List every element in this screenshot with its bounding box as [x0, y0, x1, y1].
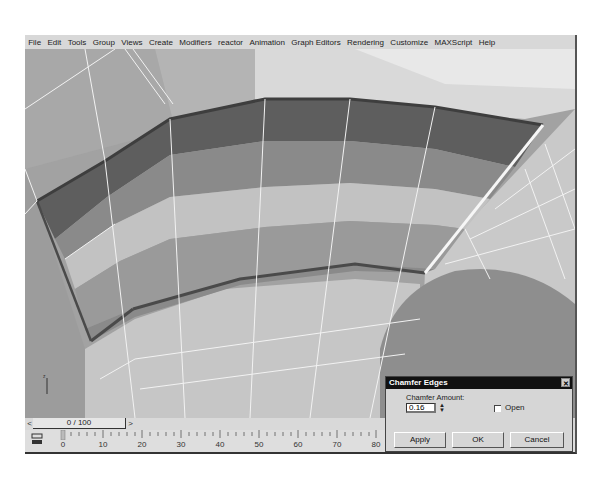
menu-animation[interactable]: Animation — [246, 38, 288, 47]
chamfer-amount-label: Chamfer Amount: — [406, 393, 464, 402]
ruler-tick-label: 50 — [255, 440, 264, 449]
ruler-tick-label: 10 — [99, 440, 108, 449]
frame-ruler[interactable]: 0 10 20 30 40 50 60 70 80 — [55, 430, 385, 452]
svg-text:z: z — [43, 374, 46, 379]
dialog-title-bar[interactable]: Chamfer Edges ✕ — [386, 377, 572, 389]
menu-create[interactable]: Create — [146, 38, 176, 47]
perspective-viewport[interactable]: z — [25, 49, 575, 418]
ruler-tick-label: 80 — [372, 440, 381, 449]
menu-group[interactable]: Group — [90, 38, 119, 47]
menu-help[interactable]: Help — [476, 38, 499, 47]
time-slider[interactable]: < 0 / 100 > — [25, 418, 385, 430]
axis-tripod-icon: z — [42, 374, 52, 396]
ruler-tick-label: 40 — [216, 440, 225, 449]
mesh-render — [25, 49, 575, 418]
chamfer-amount-input[interactable] — [406, 403, 436, 413]
open-checkbox-label: Open — [505, 403, 525, 412]
ruler-tick-label: 0 — [61, 440, 65, 449]
menu-bar: File Edit Tools Group Views Create Modif… — [25, 35, 575, 49]
cancel-button[interactable]: Cancel — [510, 432, 564, 448]
menu-customize[interactable]: Customize — [387, 38, 431, 47]
mini-curve-editor-icon[interactable] — [31, 433, 43, 445]
time-slider-thumb[interactable]: 0 / 100 — [33, 418, 126, 429]
ok-button[interactable]: OK — [452, 432, 504, 448]
menu-graph-editors[interactable]: Graph Editors — [288, 38, 344, 47]
menu-tools[interactable]: Tools — [64, 38, 89, 47]
ruler-tick-label: 30 — [177, 440, 186, 449]
menu-file[interactable]: File — [25, 38, 44, 47]
ruler-tick-label: 20 — [138, 440, 147, 449]
dialog-title: Chamfer Edges — [389, 378, 448, 387]
ruler-tick-label: 70 — [333, 440, 342, 449]
menu-reactor[interactable]: reactor — [215, 38, 246, 47]
close-icon[interactable]: ✕ — [561, 378, 570, 387]
menu-views[interactable]: Views — [118, 38, 146, 47]
menu-modifiers[interactable]: Modifiers — [176, 38, 215, 47]
menu-maxscript[interactable]: MAXScript — [431, 38, 475, 47]
apply-button[interactable]: Apply — [394, 432, 446, 448]
menu-rendering[interactable]: Rendering — [344, 38, 387, 47]
time-slider-next-arrow[interactable]: > — [126, 419, 135, 429]
chamfer-amount-spinner-icon[interactable]: ▲▼ — [439, 403, 445, 413]
menu-edit[interactable]: Edit — [44, 38, 64, 47]
ruler-ticks — [55, 430, 385, 440]
ruler-tick-label: 60 — [294, 440, 303, 449]
open-checkbox[interactable] — [494, 405, 501, 412]
chamfer-edges-dialog: Chamfer Edges ✕ Chamfer Amount: ▲▼ Open … — [385, 376, 573, 452]
